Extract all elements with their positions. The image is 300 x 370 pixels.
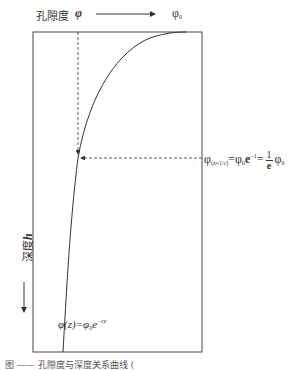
depth-text: 深度 (22, 240, 35, 262)
depth-label: 深度h (19, 233, 36, 262)
phi0-symbol: φ (172, 6, 179, 20)
porosity-depth-curve (63, 32, 186, 352)
formula-label: φ(z)=φ0e−cz (58, 318, 106, 331)
depth-var: h (21, 233, 35, 240)
annotation-equation: φ(z=1/c)=φ0e−1=1eφ0 (204, 150, 284, 171)
phi0-label: φ0 (172, 6, 182, 21)
ann-eq1: =φ (228, 152, 242, 166)
ann-fraction: 1e (266, 150, 273, 171)
porosity-label: 孔隙度 (36, 7, 69, 23)
ann-sub: (z=1/c) (211, 160, 228, 166)
diagram-canvas (0, 0, 300, 370)
phi0-sub: 0 (179, 14, 182, 20)
figure-caption: 图 —— 孔隙度与深度关系曲线 ( (5, 358, 134, 370)
ann-eq2: = (257, 152, 264, 166)
frac-den: e (266, 161, 273, 171)
formula-lhs: φ(z)=φ (58, 318, 89, 330)
plot-frame (33, 32, 202, 352)
ann-rhs-sub: 0 (281, 160, 284, 166)
phi-symbol: φ (75, 6, 82, 21)
ann-phi: φ (204, 152, 211, 166)
formula-exp: −cz (97, 318, 106, 324)
